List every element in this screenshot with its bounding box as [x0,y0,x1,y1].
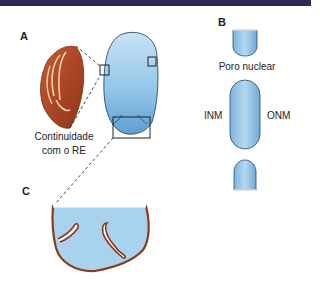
panel-label-c: C [22,186,30,197]
er-organelle-icon [41,46,84,128]
onm-label: ONM [267,111,290,121]
pore-middle-segment-icon [230,80,260,149]
caption-line-1: Continuidade [29,132,99,142]
panel-label-b: B [218,17,226,28]
caption-line-2: com o RE [29,146,99,156]
nuclear-envelope-detail-icon [52,206,148,271]
pore-bottom-segment-icon [234,160,256,190]
pore-top-segment-icon [233,30,257,56]
panel-label-a: A [20,31,28,42]
pore-label: Poro nuclear [215,62,279,72]
inm-label: INM [204,111,222,121]
